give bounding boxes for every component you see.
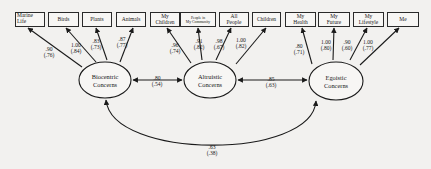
loading-all-people: .98 (.67) bbox=[214, 38, 225, 50]
loading-children: 1.00 (.82) bbox=[236, 37, 247, 49]
observed-marine-life: Marine Life bbox=[15, 12, 45, 27]
observed-people-in-my-community: People in My Community bbox=[180, 12, 216, 27]
correlation-alt-ego-label: .85 (.63) bbox=[266, 76, 277, 88]
loading-birds: 1.00 (.84) bbox=[71, 42, 82, 54]
loading-my-lifestyle: .90 (.60) bbox=[342, 39, 353, 51]
latent-altruistic-label: Altruistic Concerns bbox=[198, 73, 222, 88]
loading-marine-life: .90 (.76) bbox=[44, 46, 55, 58]
observed-animals: Animals bbox=[116, 12, 146, 27]
loading-me: 1.00 (.77) bbox=[363, 39, 374, 51]
loading-my-children: .96 (.74) bbox=[170, 42, 181, 54]
correlation-bio-alt-label: .80 (.54) bbox=[152, 75, 163, 87]
observed-me: Me bbox=[387, 12, 419, 27]
loading-my-future: 1.00 (.80) bbox=[321, 39, 332, 51]
correlation-bio-ego-label: .63 (.38) bbox=[207, 144, 218, 156]
path-egoistic-my-future bbox=[333, 28, 334, 60]
latent-biocentric-label: Biocentric Concerns bbox=[92, 73, 119, 88]
observed-plants: Plants bbox=[82, 12, 112, 27]
loading-my-health: .80 (.71) bbox=[294, 43, 305, 55]
observed-children: Children bbox=[252, 12, 281, 27]
observed-birds: Birds bbox=[48, 12, 79, 27]
observed-my-lifestyle: My Lifestyle bbox=[353, 12, 384, 27]
observed-my-health: My Health bbox=[285, 12, 316, 27]
observed-my-children: My Children bbox=[150, 12, 180, 27]
loading-animals: .87 (.77) bbox=[117, 36, 128, 48]
loading-people-in-my-community: .91 (.82) bbox=[194, 38, 205, 50]
correlation-bio-ego bbox=[106, 100, 316, 145]
sem-diagram: Marine Life Birds Plants Animals My Chil… bbox=[0, 0, 431, 169]
loading-plants: .83 (.73) bbox=[91, 38, 102, 50]
observed-my-future: My Future bbox=[318, 12, 350, 27]
latent-egoistic-label: Egoistic Concerns bbox=[324, 74, 348, 89]
observed-all-people: All People bbox=[219, 12, 249, 27]
